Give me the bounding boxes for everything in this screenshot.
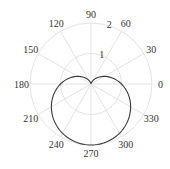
angle-label-210: 210 (23, 113, 38, 124)
angle-label-30: 30 (146, 44, 156, 55)
angle-label-60: 60 (121, 18, 131, 29)
angle-gridline-240 (61, 84, 92, 137)
angle-label-330: 330 (144, 113, 159, 124)
angle-label-300: 300 (118, 139, 133, 150)
polar-plot-canvas: 0306090120150180210240270300330 12 (0, 0, 170, 169)
angle-label-0: 0 (158, 79, 163, 90)
angle-gridline-210 (38, 84, 91, 115)
radius-label-1: 1 (99, 49, 104, 60)
angle-gridline-330 (91, 84, 144, 115)
polar-chart: 0306090120150180210240270300330 12 (0, 0, 170, 169)
angle-label-180: 180 (14, 79, 29, 90)
angle-label-150: 150 (23, 44, 38, 55)
angle-gridline-150 (38, 54, 91, 85)
angle-label-90: 90 (86, 9, 96, 20)
angle-label-240: 240 (49, 139, 64, 150)
angle-label-270: 270 (84, 148, 99, 159)
angle-gridline-300 (91, 84, 122, 137)
radius-label-2: 2 (107, 19, 112, 30)
angle-label-120: 120 (49, 18, 64, 29)
